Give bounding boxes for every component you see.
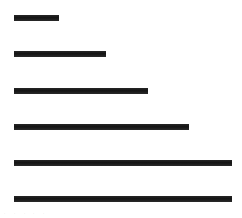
bar-fill — [14, 160, 232, 166]
bar-fill — [14, 196, 232, 202]
bar-fill — [14, 88, 148, 94]
bar-row[interactable] — [14, 51, 106, 57]
bar-fill — [14, 15, 59, 21]
bar-row[interactable] — [14, 15, 59, 21]
plot-area — [0, 0, 242, 218]
bar-fill — [14, 124, 189, 130]
bar-row[interactable] — [14, 160, 232, 166]
bar-fill — [14, 51, 106, 57]
bar-row[interactable] — [14, 124, 189, 130]
bar-row[interactable] — [14, 88, 148, 94]
bar-row[interactable] — [14, 196, 232, 202]
bar-chart: ····· — [0, 0, 242, 218]
